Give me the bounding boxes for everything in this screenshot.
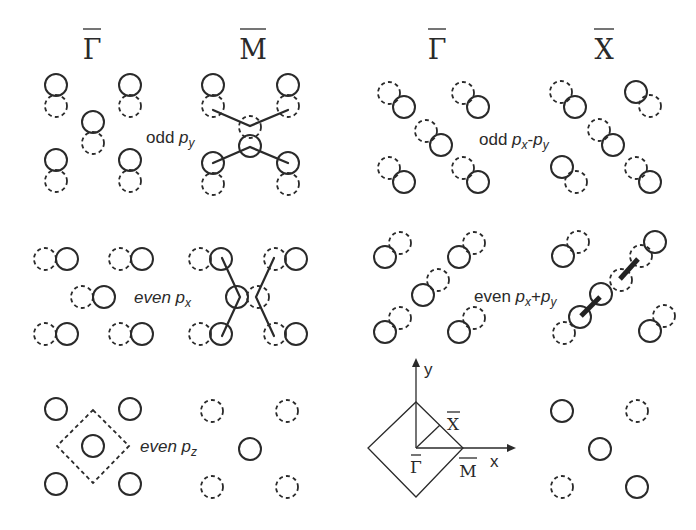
label-even-px-plus-py: even px+py — [474, 287, 557, 309]
panel-even-pxpy-x — [552, 231, 675, 344]
panel-even-px-m — [189, 248, 307, 345]
label-odd-py: odd py — [146, 128, 196, 150]
panel-even-pz-gamma — [45, 398, 141, 495]
label-even-px: even px — [134, 288, 192, 310]
svg-text:M: M — [239, 34, 267, 65]
label-odd-px-py: odd px-py — [479, 130, 550, 152]
svg-text:X: X — [447, 414, 460, 434]
y-arrow-icon — [412, 358, 420, 367]
header-x-right: X — [594, 29, 614, 65]
svg-text:Γ: Γ — [428, 34, 447, 65]
svg-text:X: X — [594, 34, 614, 65]
label-even-pz: even pz — [140, 437, 197, 459]
panel-odd-py-m — [202, 74, 299, 195]
svg-text:y: y — [424, 360, 433, 379]
svg-text:Γ: Γ — [83, 34, 102, 65]
panel-odd-py-gamma — [45, 74, 141, 192]
panel-even-pxpy-gamma — [374, 232, 485, 343]
panel-even-pz-x — [551, 400, 648, 498]
panel-even-pz-m — [201, 400, 298, 498]
svg-text:Γ: Γ — [410, 457, 422, 477]
header-gamma-left: Γ — [83, 29, 102, 65]
header-m-left: M — [239, 29, 267, 65]
panel-odd-pxpy-x — [550, 81, 661, 193]
orbital-symmetry-diagram: Γ M Γ X odd py — [0, 0, 696, 530]
svg-text:x: x — [490, 452, 499, 471]
brillouin-zone-sketch: y x X Γ M — [368, 358, 516, 497]
x-arrow-icon — [507, 444, 516, 452]
svg-text:M: M — [459, 461, 476, 481]
diagram-svg: Γ M Γ X odd py — [0, 0, 696, 530]
panel-odd-pxpy-gamma — [378, 82, 489, 193]
header-gamma-right: Γ — [428, 29, 447, 65]
